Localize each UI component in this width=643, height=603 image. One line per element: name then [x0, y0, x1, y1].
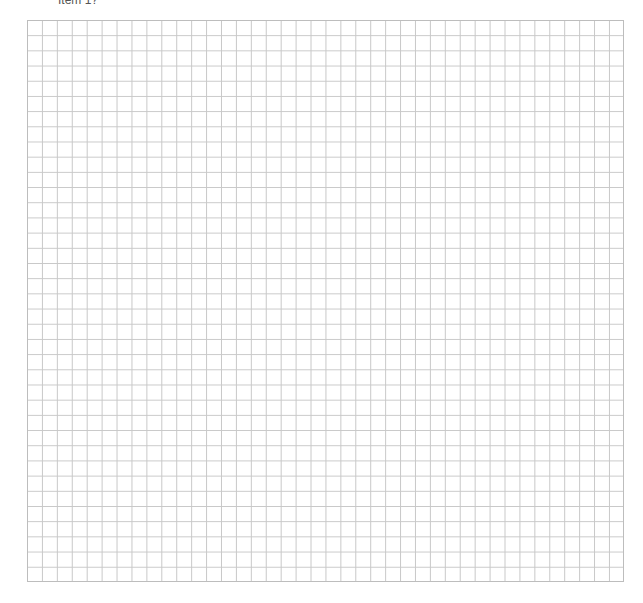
graph-paper-grid	[27, 20, 624, 582]
grid-caption: Item 1?	[58, 0, 98, 7]
